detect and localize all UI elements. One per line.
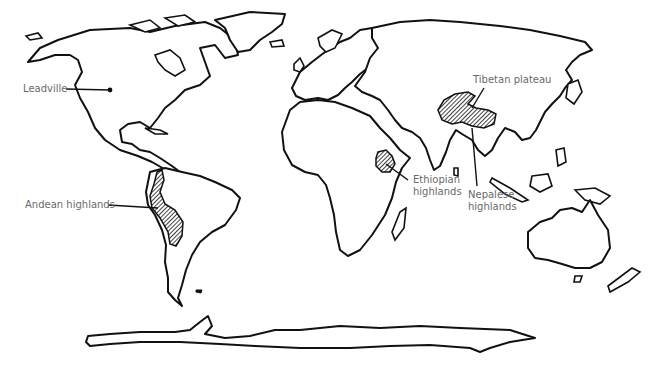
label-leadville: Leadville (23, 83, 67, 95)
label-ethiopian-line1: Ethiopian (413, 174, 462, 186)
label-nepalese-line2: highlands (468, 201, 517, 213)
label-tibetan-plateau: Tibetan plateau (473, 74, 551, 86)
madagascar (392, 208, 406, 240)
falklands (196, 290, 202, 293)
label-tibetan-text: Tibetan plateau (473, 74, 551, 86)
label-andean-text: Andean highlands (25, 199, 115, 211)
label-nepalese-highlands: Nepalese highlands (468, 189, 517, 213)
cuba (145, 128, 168, 134)
label-andean-highlands: Andean highlands (25, 199, 115, 211)
new-zealand (608, 268, 640, 292)
australia (528, 200, 610, 268)
new-guinea (575, 188, 610, 204)
philippines (556, 148, 566, 166)
borneo (530, 174, 552, 192)
alaska-islands (26, 33, 42, 40)
antarctica (86, 316, 535, 352)
africa (282, 100, 410, 256)
label-ethiopian-highlands: Ethiopian highlands (413, 174, 462, 198)
label-leadville-text: Leadville (23, 83, 67, 95)
japan (566, 80, 582, 104)
iceland (270, 40, 284, 47)
tasmania (574, 276, 582, 282)
north-america (28, 22, 238, 176)
world-map: Leadville Andean highlands Ethiopian hig… (0, 0, 651, 370)
world-map-svg (0, 0, 651, 370)
label-nepalese-line1: Nepalese (468, 189, 517, 201)
leadville-leader (66, 89, 110, 90)
label-ethiopian-line2: highlands (413, 186, 462, 198)
